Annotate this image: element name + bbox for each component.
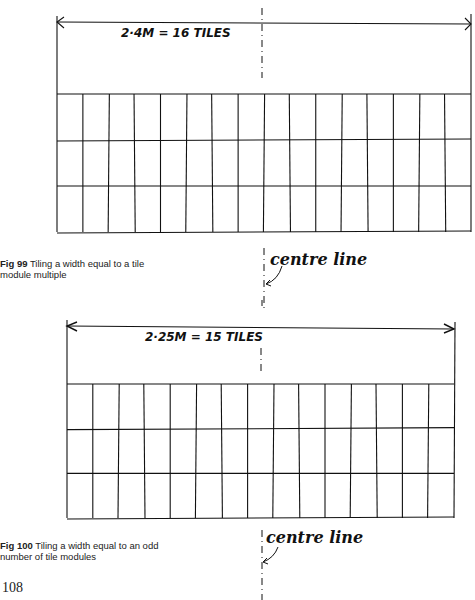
- fig99-caption: Fig 99 Tiling a width equal to a tile mo…: [0, 258, 170, 280]
- page-number: 108: [2, 580, 23, 596]
- fig99-caption-number: Fig 99: [0, 258, 27, 269]
- fig99-dimension-label: 2·4M = 16 TILES: [121, 26, 231, 40]
- fig99-tile-grid: [57, 94, 471, 233]
- fig100-caption: Fig 100 Tiling a width equal to an odd n…: [0, 540, 165, 562]
- fig100-tile-grid: [67, 384, 454, 519]
- fig99-drawing: 2·4M = 16 TILES 2·25M = 15 TILES: [0, 0, 475, 600]
- fig100-caption-number: Fig 100: [0, 540, 33, 551]
- fig100-dimension-label: 2·25M = 15 TILES: [145, 330, 263, 344]
- fig100-centre-line-label: centre line: [266, 528, 363, 547]
- fig99-centre-line-label: centre line: [270, 250, 367, 269]
